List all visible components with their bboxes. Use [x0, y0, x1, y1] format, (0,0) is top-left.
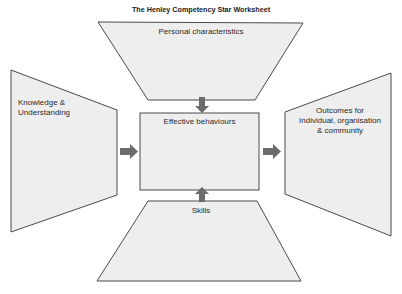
outcomes-label-line3: & community: [285, 126, 395, 136]
knowledge-understanding-label: Knowledge & Understanding: [18, 98, 108, 118]
arrow-right-icon: [120, 144, 138, 159]
skills-label: Skills: [170, 206, 232, 216]
outcomes-label-line1: Outcomes for: [285, 106, 395, 116]
competency-star-diagram: [0, 0, 402, 294]
knowledge-label-line2: Understanding: [18, 108, 108, 118]
arrow-right-icon: [263, 144, 281, 159]
effective-behaviours-label: Effective behaviours: [140, 117, 259, 127]
personal-characteristics-label: Personal characteristics: [130, 27, 272, 37]
outcomes-shape: [285, 73, 391, 236]
knowledge-label-line1: Knowledge &: [18, 98, 108, 108]
outcomes-label-line2: Individual, organisation: [285, 116, 395, 126]
knowledge-understanding-shape: [11, 70, 117, 232]
outcomes-label: Outcomes for Individual, organisation & …: [285, 106, 395, 136]
